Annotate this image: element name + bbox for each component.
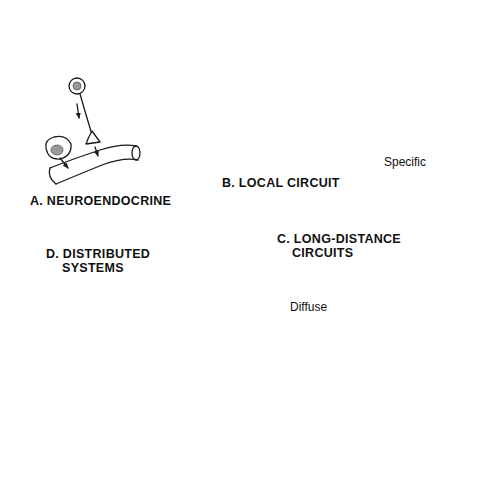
- neurosecretory-neuron: [69, 78, 100, 156]
- panel-d-label-line1: D. DISTRIBUTED: [46, 247, 150, 261]
- endocrine-cell: [46, 136, 71, 168]
- specific-label: Specific: [384, 155, 426, 169]
- panel-c-label-line2: CIRCUITS: [292, 246, 353, 260]
- panel-a-label: A. NEUROENDOCRINE: [30, 194, 171, 208]
- panel-a-neuroendocrine: [46, 78, 140, 184]
- panel-b-label: B. LOCAL CIRCUIT: [222, 176, 340, 190]
- panel-d-label-line2: SYSTEMS: [62, 261, 124, 275]
- panel-c-label-line1: C. LONG-DISTANCE: [277, 232, 401, 246]
- diffuse-label: Diffuse: [290, 300, 327, 314]
- flow-arrow: [77, 104, 79, 118]
- neural-circuit-diagram: A. NEUROENDOCRINE B. LOCAL CIRCUIT C. LO…: [0, 0, 492, 504]
